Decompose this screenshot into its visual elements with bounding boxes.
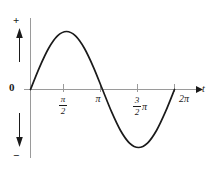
negative-direction-arrow-icon [16, 113, 23, 147]
fraction-denominator: 2 [60, 106, 67, 116]
plot-canvas [0, 0, 215, 173]
tick-label-3pi-half: 3 2 π [133, 95, 147, 117]
fraction-numerator: 3 [134, 96, 141, 106]
tick-label-pi: π [95, 94, 100, 104]
fraction-pi-half: π 2 [59, 95, 67, 116]
tick-label-2pi: 2π [179, 94, 189, 104]
negative-sign-label: − [13, 150, 19, 161]
x-axis-label: t [202, 84, 205, 94]
positive-direction-arrow-icon [16, 28, 23, 62]
fraction-denominator: 2 [134, 107, 141, 117]
tick-label-pi-half: π 2 [59, 95, 67, 116]
origin-label: 0 [9, 82, 15, 93]
positive-sign-label: + [13, 15, 19, 26]
fraction-numerator: π [60, 95, 67, 105]
mixed-number-3pi-half: 3 2 π [133, 96, 147, 117]
sine-wave-figure: 0 + − t π 2 π 3 2 π 2π [0, 0, 215, 173]
fraction-suffix-pi: π [141, 102, 147, 112]
fraction-three-halves: 3 2 [133, 96, 141, 117]
